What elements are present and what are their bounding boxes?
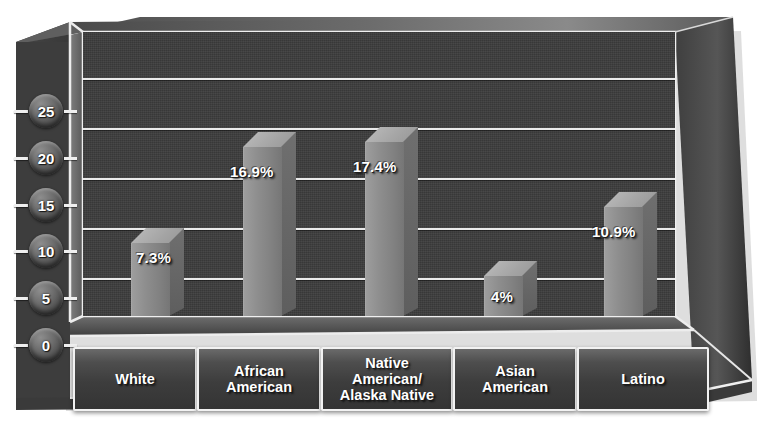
category-labels-row: White African American Native American/ …: [0, 347, 757, 410]
label-line: American: [482, 379, 548, 395]
category-box-african-american[interactable]: African American: [197, 347, 321, 411]
bar-value-native-american: 17.4%: [353, 158, 397, 175]
bar-chart: 7.3% 16.9% 17.4% 4% 10.9%: [0, 0, 757, 425]
category-label-latino: Latino: [617, 371, 669, 387]
y-tick-dash-outer: [14, 110, 28, 113]
category-label-white: White: [111, 371, 158, 387]
category-label-native-american: Native American/ Alaska Native: [336, 355, 438, 403]
label-line: Latino: [621, 371, 665, 387]
y-tick-15: 15: [14, 188, 77, 222]
bar-side-face: [281, 132, 296, 316]
category-box-white[interactable]: White: [73, 347, 197, 411]
label-line: White: [115, 371, 154, 387]
bar-side-face: [169, 228, 184, 316]
bar-side-face: [642, 192, 657, 316]
y-axis-label-15: 15: [29, 188, 63, 222]
y-tick-dash-outer: [14, 157, 28, 160]
y-tick-25: 25: [14, 94, 77, 128]
y-tick-dash-inner: [64, 250, 77, 253]
bar-value-latino: 10.9%: [592, 223, 636, 240]
bar-value-african-american: 16.9%: [230, 163, 274, 180]
label-line: Alaska Native: [340, 387, 434, 403]
category-label-african-american: African American: [222, 363, 296, 395]
y-axis-label-10: 10: [29, 234, 63, 268]
label-line: American: [226, 379, 292, 395]
label-line: Native: [340, 355, 434, 371]
y-tick-dash-inner: [64, 297, 77, 300]
y-axis-label-5: 5: [29, 281, 63, 315]
y-axis-label-20: 20: [29, 141, 63, 175]
y-tick-10: 10: [14, 234, 77, 268]
category-box-asian-american[interactable]: Asian American: [453, 347, 577, 411]
category-box-native-american[interactable]: Native American/ Alaska Native: [321, 347, 453, 411]
y-tick-20: 20: [14, 141, 77, 175]
bar-value-asian-american: 4%: [491, 288, 513, 305]
y-tick-dash-outer: [14, 297, 28, 300]
y-tick-dash-outer: [14, 250, 28, 253]
y-tick-dash-inner: [64, 110, 77, 113]
y-tick-dash-inner: [64, 157, 77, 160]
y-axis-label-25: 25: [29, 94, 63, 128]
label-line: Asian: [482, 363, 548, 379]
bar-value-white: 7.3%: [136, 249, 171, 266]
bar-side-face: [403, 127, 418, 316]
category-label-asian-american: Asian American: [478, 363, 552, 395]
label-line: African: [226, 363, 292, 379]
category-box-latino[interactable]: Latino: [577, 347, 709, 411]
y-tick-dash-inner: [64, 204, 77, 207]
y-tick-5: 5: [14, 281, 77, 315]
label-line: American/: [340, 371, 434, 387]
y-tick-dash-outer: [14, 204, 28, 207]
